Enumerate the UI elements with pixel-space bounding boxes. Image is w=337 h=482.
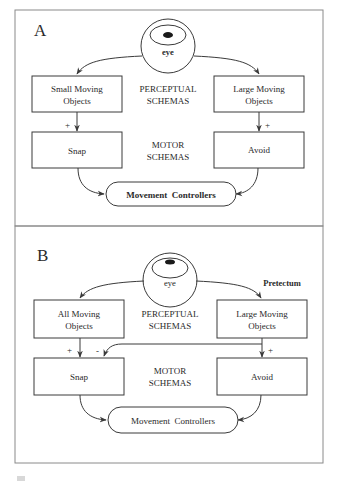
arrow-eye-to-all <box>80 281 144 298</box>
arrow-avoid-to-controllers <box>238 395 261 420</box>
excitatory-sign: + <box>265 120 270 130</box>
eye-label: eye <box>164 278 176 288</box>
motor-schemas-heading: MOTOR SCHEMAS <box>149 366 192 388</box>
svg-text:Objects: Objects <box>65 321 93 331</box>
perceptual-schemas-heading: PERCEPTUAL SCHEMAS <box>139 84 196 106</box>
svg-text:Snap: Snap <box>70 372 89 382</box>
movement-controllers-box: Movement Controllers <box>108 407 238 433</box>
schema-diagram: A eye Small Moving Objects Large Moving … <box>0 0 337 482</box>
inhibitory-sign: - <box>96 346 99 356</box>
svg-text:Objects: Objects <box>63 96 91 106</box>
svg-text:MOTOR: MOTOR <box>154 366 186 376</box>
eye-label: eye <box>162 47 174 57</box>
panel-a-letter: A <box>34 21 47 40</box>
arrow-eye-to-large <box>196 281 261 298</box>
arrow-avoid-to-controllers <box>236 168 258 194</box>
svg-text:PERCEPTUAL: PERCEPTUAL <box>139 84 196 94</box>
svg-text:SCHEMAS: SCHEMAS <box>149 321 192 331</box>
svg-text:Large Moving: Large Moving <box>233 84 285 94</box>
svg-text:PERCEPTUAL: PERCEPTUAL <box>141 309 198 319</box>
svg-text:Avoid: Avoid <box>251 372 273 382</box>
arrow-snap-to-controllers <box>80 395 106 420</box>
panel-b: B eye Pretectum All Moving Objects Large… <box>15 226 323 463</box>
panel-b-letter: B <box>37 246 48 265</box>
movement-controllers-box: Movement Controllers <box>106 182 236 206</box>
avoid-box: Avoid <box>217 358 307 395</box>
large-moving-objects-box: Large Moving Objects <box>217 300 307 338</box>
svg-text:SCHEMAS: SCHEMAS <box>147 96 190 106</box>
svg-text:Avoid: Avoid <box>248 145 270 155</box>
small-moving-objects-box: Small Moving Objects <box>32 76 122 112</box>
svg-text:Large Moving: Large Moving <box>236 309 288 319</box>
svg-text:Objects: Objects <box>245 96 273 106</box>
svg-text:Movement Controllers: Movement Controllers <box>131 416 215 426</box>
svg-text:All Moving: All Moving <box>58 309 101 319</box>
excitatory-sign: + <box>67 345 72 355</box>
svg-text:Small Moving: Small Moving <box>51 84 103 94</box>
panel-a: A eye Small Moving Objects Large Moving … <box>15 10 323 226</box>
svg-text:Objects: Objects <box>248 321 276 331</box>
svg-text:Snap: Snap <box>68 146 87 156</box>
inhibitory-arrow-large-to-snap <box>104 344 262 356</box>
eye-icon <box>141 19 195 73</box>
svg-text:MOTOR: MOTOR <box>152 140 184 150</box>
pretectum-label: Pretectum <box>263 278 301 288</box>
svg-text:SCHEMAS: SCHEMAS <box>149 378 192 388</box>
excitatory-sign: + <box>268 345 273 355</box>
avoid-box: Avoid <box>214 132 304 168</box>
svg-text:SCHEMAS: SCHEMAS <box>147 152 190 162</box>
caption-fragment <box>17 476 25 481</box>
motor-schemas-heading: MOTOR SCHEMAS <box>147 140 190 162</box>
svg-text:Movement Controllers: Movement Controllers <box>126 190 216 200</box>
snap-box: Snap <box>34 358 124 395</box>
large-moving-objects-box: Large Moving Objects <box>214 76 304 112</box>
arrow-snap-to-controllers <box>78 168 104 194</box>
arrow-eye-to-large <box>194 56 259 74</box>
snap-box: Snap <box>32 132 122 168</box>
excitatory-sign: + <box>65 120 70 130</box>
perceptual-schemas-heading: PERCEPTUAL SCHEMAS <box>141 309 198 331</box>
arrow-eye-to-small <box>77 56 142 74</box>
all-moving-objects-box: All Moving Objects <box>34 300 124 338</box>
